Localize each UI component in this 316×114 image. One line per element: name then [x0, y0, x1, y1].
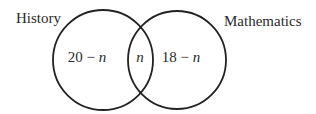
mathematics-only-number: 18 − — [162, 49, 193, 65]
venn-diagram: History Mathematics 20 − n n 18 − n — [0, 0, 316, 114]
intersection-variable: n — [136, 49, 144, 65]
mathematics-only-variable: n — [193, 49, 201, 65]
history-only-region: 20 − n — [68, 49, 106, 66]
mathematics-label: Mathematics — [224, 13, 301, 30]
intersection-region: n — [136, 49, 144, 66]
mathematics-only-region: 18 − n — [162, 49, 200, 66]
history-only-variable: n — [99, 49, 107, 65]
history-only-number: 20 − — [68, 49, 99, 65]
history-label: History — [16, 10, 61, 27]
